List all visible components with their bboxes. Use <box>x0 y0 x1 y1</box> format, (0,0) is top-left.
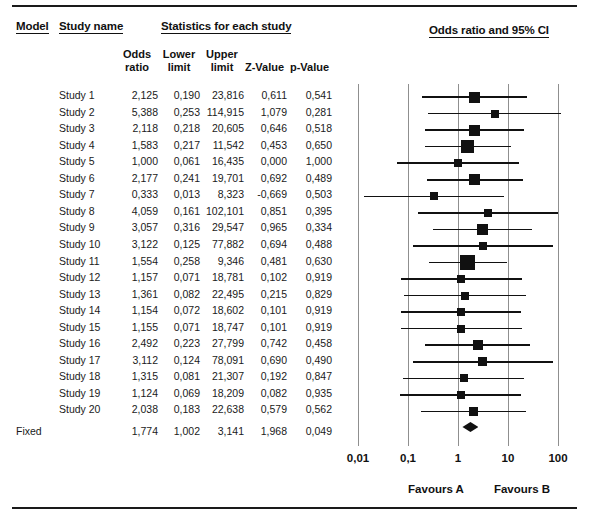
table-row: Study 111,5540,2589,3460,4810,630 <box>0 255 348 271</box>
cell-upper-limit: 19,701 <box>196 172 244 184</box>
cell-upper-limit: 18,209 <box>196 387 244 399</box>
cell-lower-limit: 0,190 <box>152 89 200 101</box>
effect-size-marker <box>457 275 465 283</box>
cell-study-name: Study 18 <box>59 370 100 382</box>
cell-upper-limit: 23,816 <box>196 89 244 101</box>
forest-plot: Odds ratio and 95% CI 0,010,1110100 Favo… <box>348 0 589 519</box>
axis-tick-label: 100 <box>538 452 578 464</box>
table-row: Study 181,3150,08121,3070,1920,847 <box>0 370 348 386</box>
cell-lower-limit: 0,071 <box>152 321 200 333</box>
effect-size-marker <box>479 242 487 250</box>
cell-lower-limit: 0,183 <box>152 403 200 415</box>
cell-z-value: 0,192 <box>240 370 287 382</box>
cell-p-value: 0,489 <box>285 172 332 184</box>
effect-size-marker <box>469 92 480 103</box>
cell-p-value: 0,847 <box>285 370 332 382</box>
column-header-study-name: Study name <box>59 20 123 34</box>
table-row: Study 41,5830,21711,5420,4530,650 <box>0 139 348 155</box>
table-row: Study 12,1250,19023,8160,6110,541 <box>0 89 348 105</box>
table-row: Study 62,1770,24119,7010,6920,489 <box>0 172 348 188</box>
cell-odds-ratio: 3,057 <box>108 221 158 233</box>
column-header-upper-limit: Upper limit <box>200 48 244 73</box>
cell-study-name: Study 16 <box>59 337 100 349</box>
effect-size-marker <box>484 209 492 217</box>
cell-z-value: 0,453 <box>240 139 287 151</box>
table-row: Study 131,3610,08222,4950,2150,829 <box>0 288 348 304</box>
favours-left-label: Favours A <box>386 483 486 495</box>
cell-study-name: Study 7 <box>59 188 95 200</box>
cell-upper-limit: 9,346 <box>196 255 244 267</box>
cell-p-value: 0,281 <box>285 106 332 118</box>
cell-study-name: Study 5 <box>59 155 95 167</box>
cell-odds-ratio: 3,122 <box>108 238 158 250</box>
gridline-10 <box>508 84 509 446</box>
cell-lower-limit: 0,258 <box>152 255 200 267</box>
effect-size-marker <box>457 308 465 316</box>
cell-p-value: 0,503 <box>285 188 332 200</box>
cell-z-value: 0,481 <box>240 255 287 267</box>
cell-z-value: 0,102 <box>240 271 287 283</box>
cell-odds-ratio: 1,774 <box>108 425 158 437</box>
cell-odds-ratio: 5,388 <box>108 106 158 118</box>
cell-upper-limit: 27,799 <box>196 337 244 349</box>
cell-z-value: 1,079 <box>240 106 287 118</box>
cell-p-value: 0,829 <box>285 288 332 300</box>
cell-study-name: Study 12 <box>59 271 100 283</box>
cell-lower-limit: 1,002 <box>152 425 200 437</box>
table-row: Study 162,4920,22327,7990,7420,458 <box>0 337 348 353</box>
cell-study-name: Study 8 <box>59 205 95 217</box>
table-row: Study 121,1570,07118,7810,1020,919 <box>0 271 348 287</box>
column-header-p-value: p-Value <box>287 61 332 74</box>
cell-lower-limit: 0,124 <box>152 354 200 366</box>
cell-lower-limit: 0,316 <box>152 221 200 233</box>
cell-p-value: 0,488 <box>285 238 332 250</box>
cell-upper-limit: 22,495 <box>196 288 244 300</box>
cell-study-name: Study 10 <box>59 238 100 250</box>
table-row: Study 202,0380,18322,6380,5790,562 <box>0 403 348 419</box>
table-row: Study 141,1540,07218,6020,1010,919 <box>0 304 348 320</box>
cell-study-name: Study 19 <box>59 387 100 399</box>
cell-p-value: 0,334 <box>285 221 332 233</box>
gridline-100 <box>558 84 559 446</box>
cell-upper-limit: 22,638 <box>196 403 244 415</box>
cell-odds-ratio: 1,154 <box>108 304 158 316</box>
table-row: Study 70,3330,0138,323-0,6690,503 <box>0 188 348 204</box>
cell-study-name: Study 4 <box>59 139 95 151</box>
cell-study-name: Study 3 <box>59 122 95 134</box>
cell-odds-ratio: 2,118 <box>108 122 158 134</box>
cell-study-name: Study 17 <box>59 354 100 366</box>
cell-upper-limit: 18,602 <box>196 304 244 316</box>
cell-p-value: 0,919 <box>285 321 332 333</box>
cell-odds-ratio: 1,124 <box>108 387 158 399</box>
cell-odds-ratio: 1,315 <box>108 370 158 382</box>
cell-odds-ratio: 2,125 <box>108 89 158 101</box>
cell-upper-limit: 114,915 <box>196 106 244 118</box>
cell-odds-ratio: 2,492 <box>108 337 158 349</box>
cell-lower-limit: 0,072 <box>152 304 200 316</box>
table-row: Study 25,3880,253114,9151,0790,281 <box>0 106 348 122</box>
cell-study-name: Study 9 <box>59 221 95 233</box>
axis-tick-label: 10 <box>488 452 528 464</box>
cell-model: Fixed <box>16 425 42 437</box>
cell-z-value: 0,742 <box>240 337 287 349</box>
cell-lower-limit: 0,081 <box>152 370 200 382</box>
cell-z-value: 0,851 <box>240 205 287 217</box>
cell-z-value: 1,968 <box>240 425 287 437</box>
cell-p-value: 0,049 <box>285 425 332 437</box>
cell-upper-limit: 8,323 <box>196 188 244 200</box>
cell-lower-limit: 0,082 <box>152 288 200 300</box>
cell-z-value: 0,082 <box>240 387 287 399</box>
cell-lower-limit: 0,013 <box>152 188 200 200</box>
effect-size-marker <box>430 192 438 200</box>
cell-z-value: 0,000 <box>240 155 287 167</box>
gridline-001 <box>358 84 359 446</box>
effect-size-marker <box>457 391 465 399</box>
cell-p-value: 0,562 <box>285 403 332 415</box>
effect-size-marker <box>460 374 468 382</box>
cell-lower-limit: 0,061 <box>152 155 200 167</box>
cell-p-value: 1,000 <box>285 155 332 167</box>
cell-upper-limit: 29,547 <box>196 221 244 233</box>
cell-upper-limit: 18,781 <box>196 271 244 283</box>
cell-upper-limit: 18,747 <box>196 321 244 333</box>
cell-upper-limit: 20,605 <box>196 122 244 134</box>
